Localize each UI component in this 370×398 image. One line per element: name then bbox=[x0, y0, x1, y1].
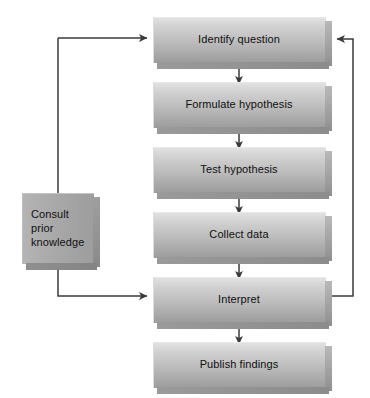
node-consult-prior-knowledge[interactable]: Consult prior knowledge bbox=[22, 193, 93, 263]
node-label: Collect data bbox=[209, 228, 268, 241]
edge-right-loop bbox=[332, 39, 353, 296]
node-label: Test hypothesis bbox=[200, 163, 277, 176]
node-label: Interpret bbox=[218, 293, 260, 306]
node-side-face bbox=[93, 197, 100, 267]
node-label: Formulate hypothesis bbox=[185, 98, 292, 111]
node-side-face bbox=[325, 216, 332, 261]
node-bottom-face bbox=[26, 263, 97, 270]
node-label: Consult prior knowledge bbox=[22, 207, 85, 249]
node-side-face bbox=[325, 21, 332, 66]
node-bottom-face bbox=[157, 322, 329, 329]
node-formulate-hypothesis[interactable]: Formulate hypothesis bbox=[153, 82, 325, 127]
node-label: Identify question bbox=[198, 33, 280, 46]
flowchart-diagram: Identify question Formulate hypothesis T… bbox=[0, 0, 370, 398]
node-side-face bbox=[325, 346, 332, 391]
node-label: Publish findings bbox=[200, 358, 279, 371]
node-bottom-face bbox=[157, 127, 329, 134]
node-test-hypothesis[interactable]: Test hypothesis bbox=[153, 147, 325, 192]
node-bottom-face bbox=[157, 192, 329, 199]
node-identify-question[interactable]: Identify question bbox=[153, 17, 325, 62]
node-publish-findings[interactable]: Publish findings bbox=[153, 342, 325, 387]
node-side-face bbox=[325, 151, 332, 196]
node-side-face bbox=[325, 281, 332, 326]
node-collect-data[interactable]: Collect data bbox=[153, 212, 325, 257]
node-bottom-face bbox=[157, 387, 329, 394]
node-interpret[interactable]: Interpret bbox=[153, 277, 325, 322]
node-bottom-face bbox=[157, 257, 329, 264]
node-bottom-face bbox=[157, 62, 329, 69]
node-side-face bbox=[325, 86, 332, 131]
